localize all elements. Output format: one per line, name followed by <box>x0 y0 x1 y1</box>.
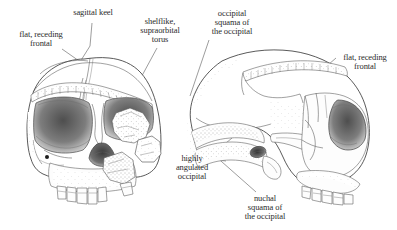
label-flat-receding-frontal-right: flat, receding frontal <box>334 53 396 71</box>
hominid-skull-figure: flat, receding frontal sagittal keel she… <box>0 0 397 230</box>
frontal-skull-drawing <box>27 58 161 204</box>
label-flat-receding-frontal-left: flat, receding frontal <box>6 30 76 48</box>
label-sagittal-keel: sagittal keel <box>64 8 122 17</box>
label-highly-angulated-occipital: highly angulated occipital <box>167 154 217 182</box>
label-occipital-squama: occipital squama of the occipital <box>201 9 263 37</box>
label-shelflike-supraorbital-torus: shelflike, supraorbital torus <box>131 17 189 45</box>
label-nuchal-squama: nuchal squama of the occipital <box>234 194 296 222</box>
lateral-skull-drawing <box>187 50 369 205</box>
